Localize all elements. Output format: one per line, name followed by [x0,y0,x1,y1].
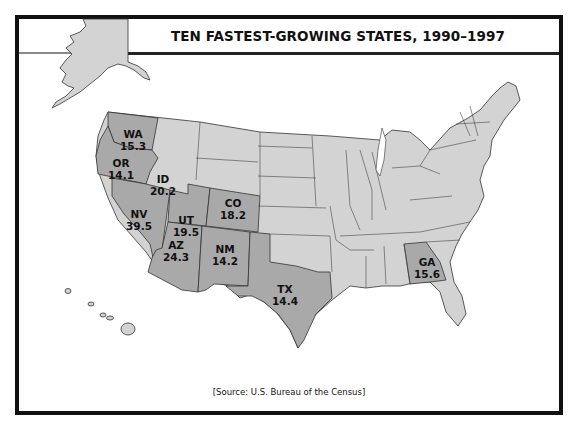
label-id-value: 20.2 [150,185,176,197]
label-az-value: 24.3 [163,251,189,263]
label-co-value: 18.2 [220,209,246,221]
label-nm-abbr: NM [215,243,234,255]
label-nv-value: 39.5 [126,220,152,232]
label-wa-value: 15.3 [120,140,146,152]
label-co-abbr: CO [225,197,242,209]
state-alaska [52,19,150,108]
label-id-abbr: ID [157,173,170,185]
label-ga-abbr: GA [419,256,437,268]
label-ut-value: 19.5 [173,226,199,238]
state-hawaii-big [121,323,135,335]
label-az-abbr: AZ [168,239,184,251]
label-nm-value: 14.2 [212,255,238,267]
label-nv-abbr: NV [131,208,149,220]
us-map: WA 15.3 OR 14.1 ID 20.2 NV 39.5 UT 19.5 … [0,0,583,433]
label-ga-value: 15.6 [414,268,440,280]
label-tx-value: 14.4 [272,295,298,307]
label-wa-abbr: WA [123,128,143,140]
label-or-value: 14.1 [108,169,134,181]
label-ut-abbr: UT [178,214,195,226]
label-tx-abbr: TX [277,283,292,295]
label-or-abbr: OR [112,157,129,169]
